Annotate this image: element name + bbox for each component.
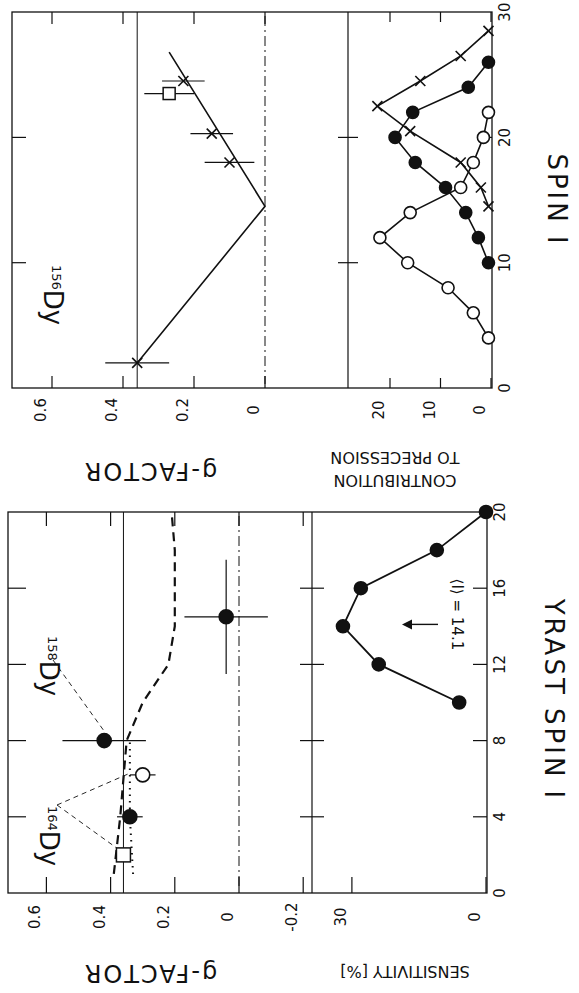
filled-circle-marker xyxy=(389,131,401,143)
g-factor-axis-title: g-FACTOR xyxy=(83,457,217,485)
spin-tick-label: 16 xyxy=(491,579,509,598)
filled-circle-marker xyxy=(440,182,452,194)
sensitivity-tick-label: 0 xyxy=(466,912,484,922)
filled-circle-marker xyxy=(472,232,484,244)
g-tick-label: 0 xyxy=(245,405,263,415)
open-circle-marker xyxy=(455,182,467,194)
filled-circle-marker xyxy=(372,658,385,671)
dy156-panel: 0.60.40.20201000102030g-FACTORCONTRIBUTI… xyxy=(12,3,572,490)
spin-tick-label: 4 xyxy=(491,812,509,822)
sensitivity-axis-title: SENSITIVITY [%] xyxy=(340,962,470,981)
g-tick-label: 0.4 xyxy=(91,905,109,929)
contribution-line xyxy=(377,31,488,206)
fit-line xyxy=(137,52,265,363)
mean-spin-annotation: ⟨I⟩ = 14.1 xyxy=(448,579,466,651)
figure-canvas: 0.60.40.20201000102030g-FACTORCONTRIBUTI… xyxy=(0,0,579,993)
spin-tick-label: 30 xyxy=(496,3,514,22)
cross-marker xyxy=(476,183,486,193)
open-circle-marker xyxy=(404,207,416,219)
spin-tick-label: 12 xyxy=(491,655,509,674)
square-marker xyxy=(116,848,130,862)
nucleus-label-164dy: 164Dy xyxy=(34,806,64,866)
spin-axis-title: YRAST SPIN I xyxy=(539,598,569,802)
filled-circle-marker xyxy=(453,696,466,709)
square-marker xyxy=(163,88,175,100)
filled-circle-marker xyxy=(336,620,349,633)
g-tick-label: 0.2 xyxy=(174,398,192,422)
open-circle-marker xyxy=(136,768,150,782)
cross-marker xyxy=(415,76,425,86)
contribution-tick-label: 0 xyxy=(471,405,489,415)
filled-circle-marker xyxy=(407,106,419,118)
contribution-axis-title: TO PRECESSION xyxy=(330,448,460,467)
filled-circle-marker xyxy=(480,506,493,519)
spin-tick-label: 20 xyxy=(496,128,514,147)
filled-circle-marker xyxy=(460,207,472,219)
leader-line xyxy=(57,774,128,805)
g-factor-axis-title: g-FACTOR xyxy=(83,959,217,987)
spin-tick-label: 10 xyxy=(496,253,514,272)
spin-tick-label: 20 xyxy=(491,502,509,521)
g-tick-label: 0.2 xyxy=(155,905,173,929)
contribution-tick-label: 20 xyxy=(370,400,388,419)
leader-line xyxy=(57,805,125,854)
g-tick-label: 0.6 xyxy=(32,398,50,422)
contribution-tick-label: 10 xyxy=(421,400,439,419)
g-tick-label: 0.4 xyxy=(103,398,121,422)
arrowhead-icon xyxy=(402,619,412,629)
spin-tick-label: 8 xyxy=(491,736,509,746)
filled-circle-marker xyxy=(97,734,111,748)
filled-circle-marker xyxy=(219,610,233,624)
filled-circle-marker xyxy=(354,582,367,595)
cross-marker xyxy=(456,157,466,167)
sensitivity-tick-label: 30 xyxy=(332,907,350,926)
filled-circle-marker xyxy=(123,810,137,824)
filled-circle-marker xyxy=(482,257,494,269)
g-tick-label: 0 xyxy=(219,912,237,922)
open-circle-marker xyxy=(477,131,489,143)
plot-frame xyxy=(8,512,487,893)
contribution-axis-title: CONTRIBUTION xyxy=(333,471,456,490)
g-tick-label: 0.6 xyxy=(26,905,44,929)
open-circle-marker xyxy=(467,156,479,168)
nucleus-label-156dy: 156Dy xyxy=(38,265,68,325)
open-circle-marker xyxy=(402,257,414,269)
open-circle-marker xyxy=(482,106,494,118)
open-circle-marker xyxy=(482,332,494,344)
cross-marker xyxy=(456,51,466,61)
plot-frame xyxy=(12,12,492,388)
filled-circle-marker xyxy=(430,544,443,557)
filled-circle-marker xyxy=(409,156,421,168)
filled-circle-marker xyxy=(462,81,474,93)
open-circle-marker xyxy=(467,307,479,319)
cross-marker xyxy=(372,101,382,111)
dy158-164-panel: 0.60.40.20-0.2300048121620g-FACTORSENSIT… xyxy=(8,502,569,987)
cross-marker xyxy=(405,126,415,136)
spin-axis-title: SPIN I xyxy=(542,153,572,246)
spin-tick-label: 0 xyxy=(491,888,509,898)
g-tick-label: -0.2 xyxy=(283,902,301,931)
open-circle-marker xyxy=(442,282,454,294)
filled-circle-marker xyxy=(482,56,494,68)
open-circle-marker xyxy=(374,232,386,244)
nucleus-label-158dy: 158Dy xyxy=(34,636,64,696)
spin-tick-label: 0 xyxy=(496,383,514,393)
